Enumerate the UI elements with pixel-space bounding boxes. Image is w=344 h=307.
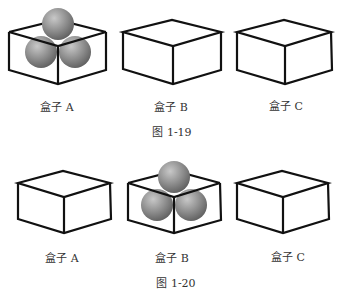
fig2-label-box-a: 盒子 A: [45, 253, 78, 265]
fig2-box-a: [18, 171, 111, 233]
fig2-box-b: [128, 161, 221, 233]
fig1-box-b: [123, 20, 221, 84]
fig1-label-box-a: 盒子 A: [40, 102, 73, 114]
fig1-label-box-c: 盒子 C: [269, 101, 303, 113]
fig2-label-box-c: 盒子 C: [271, 252, 305, 264]
fig1-box-c: [237, 20, 332, 84]
fig2-label-box-b: 盒子 B: [155, 253, 189, 265]
fig1-caption: 图 1-19: [152, 127, 191, 139]
fig2-box-c: [237, 171, 329, 233]
fig1-label-box-b: 盒子 B: [154, 102, 188, 114]
fig1-box-a: [9, 8, 106, 84]
fig2-caption: 图 1-20: [156, 278, 195, 290]
